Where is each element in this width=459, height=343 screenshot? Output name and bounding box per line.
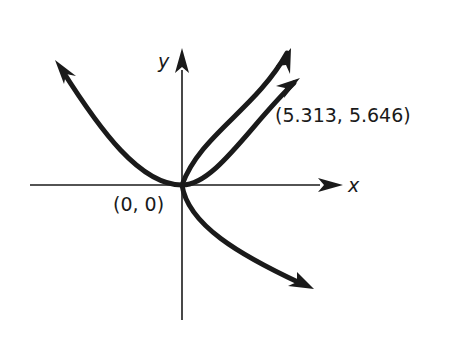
graph-svg (0, 0, 459, 343)
x-axis-arrow-icon (318, 178, 343, 192)
curve-upward-parabola (62, 70, 294, 185)
curve-a-left-arrow-icon (55, 60, 76, 84)
curve-sideways-parabola (182, 53, 300, 283)
y-axis-arrow-icon (175, 48, 189, 73)
graph-canvas: y x (0, 0) (5.313, 5.646) (0, 0, 459, 343)
x-axis-label: x (348, 174, 359, 196)
origin-point-label: (0, 0) (113, 193, 164, 215)
intersection-point-label: (5.313, 5.646) (275, 104, 411, 126)
y-axis-label: y (158, 50, 169, 72)
